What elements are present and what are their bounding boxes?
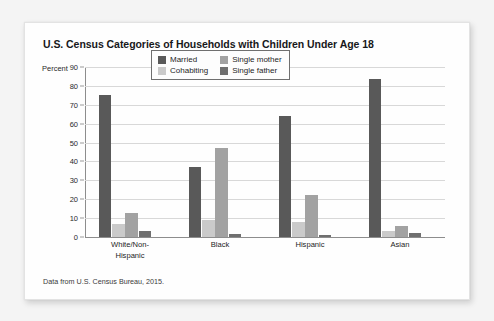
y-tick-label-60: 60 <box>70 119 78 128</box>
legend-swatch-icon <box>220 67 228 75</box>
bar <box>382 231 395 237</box>
x-tick-label-line: Black <box>175 240 265 251</box>
y-tick-mark-90 <box>80 67 84 68</box>
legend-swatch-icon <box>158 56 166 64</box>
y-tick-label-50: 50 <box>70 138 78 147</box>
y-tick-label-20: 20 <box>70 195 78 204</box>
y-tick-mark-20 <box>80 199 84 200</box>
bar-group <box>279 67 331 237</box>
bar <box>229 234 242 237</box>
y-tick-label-70: 70 <box>70 100 78 109</box>
x-tick-label-line: Hispanic <box>85 251 175 262</box>
bar <box>319 235 332 237</box>
bar <box>292 222 305 237</box>
legend-item: Single father <box>220 66 281 75</box>
legend-swatch-icon <box>220 56 228 64</box>
bar <box>305 195 318 238</box>
bar <box>409 233 422 237</box>
y-tick-mark-80 <box>80 85 84 86</box>
y-tick-mark-30 <box>80 180 84 181</box>
legend-label: Cohabiting <box>170 66 208 75</box>
y-tick-mark-10 <box>80 218 84 219</box>
legend-label: Single mother <box>232 55 281 64</box>
x-axis-labels: White/Non-HispanicBlackHispanicAsian <box>85 240 445 274</box>
bars-layer <box>85 67 445 237</box>
x-tick-label: Black <box>175 240 265 251</box>
bar-group <box>189 67 241 237</box>
bar <box>202 220 215 237</box>
y-tick-mark-0 <box>80 237 84 238</box>
bar <box>99 95 112 237</box>
page-canvas: U.S. Census Categories of Households wit… <box>0 0 494 321</box>
x-tick-label: Hispanic <box>265 240 355 251</box>
y-tick-mark-70 <box>80 104 84 105</box>
y-tick-mark-50 <box>80 142 84 143</box>
y-tick-mark-60 <box>80 123 84 124</box>
legend-item: Married <box>158 55 208 64</box>
x-tick-label: Asian <box>355 240 445 251</box>
y-tick-label-40: 40 <box>70 157 78 166</box>
y-tick-label-10: 10 <box>70 214 78 223</box>
legend-item: Single mother <box>220 55 281 64</box>
chart-legend: MarriedSingle motherCohabitingSingle fat… <box>151 50 290 80</box>
legend-swatch-icon <box>158 67 166 75</box>
x-tick-label-line: Hispanic <box>265 240 355 251</box>
bar <box>395 226 408 237</box>
bar <box>112 224 125 237</box>
y-tick-label-90: 90 <box>70 63 78 72</box>
bar <box>125 213 138 237</box>
x-tick-label-line: Asian <box>355 240 445 251</box>
y-tick-label-0: 0 <box>74 233 78 242</box>
figure-card: U.S. Census Categories of Households wit… <box>24 22 470 300</box>
y-tick-label-30: 30 <box>70 176 78 185</box>
source-note: Data from U.S. Census Bureau, 2015. <box>43 277 164 286</box>
legend-item: Cohabiting <box>158 66 208 75</box>
plot-area: 0102030405060708090 <box>85 67 445 237</box>
y-tick-label-80: 80 <box>70 81 78 90</box>
y-axis-unit-label: Percent <box>42 64 68 73</box>
bar <box>139 231 152 237</box>
bar <box>215 148 228 237</box>
bar <box>369 79 382 237</box>
bar <box>189 167 202 237</box>
page-title: U.S. Census Categories of Households wit… <box>43 38 374 50</box>
bar <box>279 116 292 237</box>
bar-group <box>369 67 421 237</box>
legend-label: Married <box>170 55 197 64</box>
bar-group <box>99 67 151 237</box>
legend-label: Single father <box>232 66 277 75</box>
x-tick-label-line: White/Non- <box>85 240 175 251</box>
y-tick-mark-40 <box>80 161 84 162</box>
gridline-0 <box>85 237 445 238</box>
x-tick-label: White/Non-Hispanic <box>85 240 175 261</box>
